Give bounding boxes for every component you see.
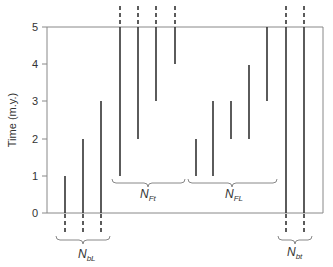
y-axis-title: Time (m.y.) [6,93,18,147]
group-label-FL: NFL [225,187,243,203]
brace-bL [56,236,110,244]
extension-below-dashes [65,214,101,233]
extension-above-dashes [120,6,175,26]
label-main: N [78,247,87,261]
y-ticks [42,27,47,213]
label-subscript: Ft [149,194,157,203]
y-tick-label: 5 [32,21,38,33]
y-tick-label: 4 [32,58,38,70]
group-label-bt: Nbt [287,245,303,261]
y-tick-label: 1 [32,170,38,182]
brace-bt [278,236,312,244]
braces [56,179,312,244]
plot-frame [47,27,323,213]
group-FL-ranges [196,27,267,176]
brace-Ft [112,179,185,187]
group-Ft-ranges [120,6,175,176]
y-tick-label: 0 [32,207,38,219]
y-tick-label: 2 [32,133,38,145]
label-main: N [287,245,296,259]
label-subscript: bL [87,254,96,263]
extension-dashes [286,6,304,233]
y-tick-labels: 0 1 2 3 4 5 [32,21,38,219]
y-tick-label: 3 [32,95,38,107]
group-label-bL: NbL [78,247,96,263]
label-main: N [140,187,149,201]
group-label-Ft: NFt [140,187,157,203]
label-main: N [225,187,234,201]
label-subscript: bt [296,252,303,261]
label-subscript: FL [234,194,243,203]
brace-FL [188,179,277,187]
group-bt-ranges [286,6,304,233]
range-diagram: 0 1 2 3 4 5 Time (m.y.) [0,0,333,267]
